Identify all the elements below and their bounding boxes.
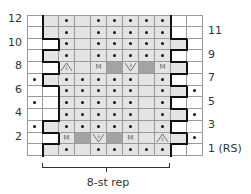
stitch-cell-r6-c6 [107, 86, 123, 98]
purl-dot-icon [113, 125, 116, 128]
row-label-1-rs: 1 (RS) [208, 143, 242, 155]
stitch-cell-r9-c9 [155, 50, 171, 62]
stitch-cell-r8-c9: M [155, 62, 171, 74]
stitch-cell-r1-c1 [27, 144, 43, 156]
outline-segment [42, 85, 59, 87]
stitch-cell-r6-c11 [187, 86, 203, 98]
row-label-10: 10 [4, 37, 22, 49]
stitch-cell-r9-c8 [139, 50, 155, 62]
purl-dot-icon [97, 19, 100, 22]
stitch-cell-r12-c2 [43, 15, 59, 27]
stitch-cell-r12-c5 [91, 15, 107, 27]
stitch-cell-r1-c5 [91, 144, 107, 156]
stitch-cell-r12-c11 [187, 15, 203, 27]
stitch-cell-r4-c6 [107, 109, 123, 121]
purl-dot-icon [129, 89, 132, 92]
stitch-cell-r6-c7 [123, 86, 139, 98]
stitch-cell-r3-c7 [123, 121, 139, 133]
stitch-cell-r7-c11 [187, 74, 203, 86]
row-label-6: 6 [4, 84, 22, 96]
stitch-cell-r1-c3 [59, 144, 75, 156]
stitch-cell-r4-c9 [155, 109, 171, 121]
stitch-cell-r8-c1 [27, 62, 43, 74]
purl-dot-icon [161, 54, 164, 57]
outline-segment [42, 61, 59, 63]
stitch-cell-r5-c5 [91, 97, 107, 109]
increase-3-icon: 3 [124, 62, 137, 72]
stitch-cell-r3-c6 [107, 121, 123, 133]
stitch-cell-r12-c4 [75, 15, 91, 27]
purl-dot-icon [113, 113, 116, 116]
purl-dot-icon [129, 101, 132, 104]
purl-dot-icon [65, 19, 68, 22]
stitch-cell-r2-c4 [75, 133, 91, 145]
purl-dot-icon [113, 148, 116, 151]
stitch-cell-r9-c5 [91, 50, 107, 62]
make-one-symbol: M [127, 134, 133, 142]
stitch-cell-r4-c11 [187, 109, 203, 121]
purl-dot-icon [161, 19, 164, 22]
stitch-cell-r7-c1 [27, 74, 43, 86]
stitch-cell-r11-c6 [107, 27, 123, 39]
purl-dot-icon [129, 113, 132, 116]
stitch-cell-r5-c7 [123, 97, 139, 109]
stitch-cell-r4-c7 [123, 109, 139, 121]
stitch-cell-r8-c3: 5 [59, 62, 75, 74]
purl-dot-icon [65, 148, 68, 151]
stitch-cell-r7-c6 [107, 74, 123, 86]
stitch-cell-r6-c5 [91, 86, 107, 98]
decrease-5-icon: 5 [60, 62, 73, 72]
stitch-cell-r1-c2 [43, 144, 59, 156]
svg-text:5: 5 [65, 66, 68, 71]
stitch-cell-r7-c7 [123, 74, 139, 86]
outline-segment [170, 144, 172, 157]
stitch-cell-r4-c4 [75, 109, 91, 121]
outline-segment [170, 96, 187, 98]
stitch-cell-r11-c4 [75, 27, 91, 39]
stitch-cell-r10-c3 [59, 39, 75, 51]
stitch-cell-r7-c5 [91, 74, 107, 86]
row-label-11: 11 [208, 25, 222, 37]
row-label-2: 2 [4, 131, 22, 143]
stitch-cell-r10-c4 [75, 39, 91, 51]
stitch-cell-r1-c10 [171, 144, 187, 156]
stitch-cell-r5-c8 [139, 97, 155, 109]
stitch-cell-r9-c11 [187, 50, 203, 62]
stitch-cell-r11-c9 [155, 27, 171, 39]
purl-dot-icon [145, 19, 148, 22]
outline-segment [42, 120, 59, 122]
stitch-cell-r12-c7 [123, 15, 139, 27]
stitch-cell-r1-c9 [155, 144, 171, 156]
outline-segment [170, 49, 187, 51]
purl-dot-icon [97, 113, 100, 116]
purl-dot-icon [145, 54, 148, 57]
stitch-cell-r5-c1 [27, 97, 43, 109]
stitch-cell-r2-c8 [139, 133, 155, 145]
purl-dot-icon [113, 101, 116, 104]
stitch-cell-r7-c4 [75, 74, 91, 86]
outline-segment [170, 143, 187, 145]
svg-text:3: 3 [129, 63, 132, 68]
outline-segment [170, 73, 187, 75]
purl-dot-icon [33, 125, 36, 128]
repeat-bracket-tick [106, 168, 107, 172]
stitch-cell-r1-c8 [139, 144, 155, 156]
stitch-cell-r10-c6 [107, 39, 123, 51]
purl-dot-icon [97, 42, 100, 45]
stitch-cell-r5-c2 [43, 97, 59, 109]
make-one-symbol: M [159, 63, 165, 71]
stitch-cell-r3-c11 [187, 121, 203, 133]
outline-segment [170, 85, 187, 87]
purl-dot-icon [129, 54, 132, 57]
row-label-5: 5 [208, 96, 215, 108]
stitch-cell-r6-c8 [139, 86, 155, 98]
purl-dot-icon [161, 125, 164, 128]
purl-dot-icon [81, 89, 84, 92]
purl-dot-icon [65, 54, 68, 57]
stitch-cell-r9-c1 [27, 50, 43, 62]
stitch-cell-r11-c11 [187, 27, 203, 39]
purl-dot-icon [65, 78, 68, 81]
purl-dot-icon [193, 89, 196, 92]
stitch-cell-r3-c9 [155, 121, 171, 133]
stitch-cell-r10-c1 [27, 39, 43, 51]
